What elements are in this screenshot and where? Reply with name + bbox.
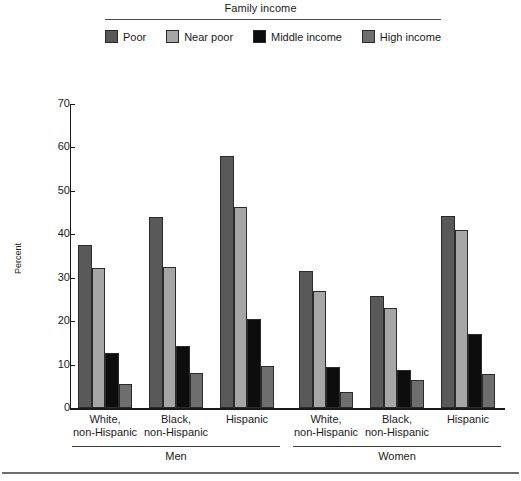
bar bbox=[176, 346, 190, 408]
y-axis-tick-label: 20 bbox=[16, 314, 70, 326]
x-axis-category-label: Hispanic bbox=[202, 413, 292, 426]
bar bbox=[234, 207, 248, 408]
y-axis-tick-label: 50 bbox=[16, 184, 70, 196]
bar bbox=[326, 367, 340, 408]
legend-swatch-high-income bbox=[362, 30, 375, 43]
y-axis-tick-label: 0 bbox=[16, 401, 70, 413]
y-axis-tick-label: 30 bbox=[16, 271, 70, 283]
bar bbox=[190, 373, 204, 408]
bar bbox=[78, 245, 92, 408]
category-label-line2: non-Hispanic bbox=[352, 426, 442, 439]
y-axis-tick-label: 40 bbox=[16, 227, 70, 239]
legend-item-label: Near poor bbox=[184, 31, 233, 43]
legend-swatch-middle-income bbox=[253, 30, 266, 43]
legend-block: Family income PoorNear poorMiddle income… bbox=[0, 0, 521, 58]
legend-items: PoorNear poorMiddle incomeHigh income bbox=[105, 30, 441, 43]
legend-item-near-poor: Near poor bbox=[166, 30, 233, 43]
bar bbox=[119, 384, 133, 408]
legend-divider-rule bbox=[105, 19, 441, 20]
bar bbox=[441, 216, 455, 408]
bar bbox=[370, 296, 384, 408]
legend-item-label: Poor bbox=[123, 31, 146, 43]
y-axis-label: Percent bbox=[13, 243, 23, 274]
sex-section-label: Men bbox=[72, 450, 280, 462]
legend-item-high-income: High income bbox=[362, 30, 441, 43]
bar bbox=[299, 271, 313, 408]
sex-section-rule bbox=[72, 446, 280, 447]
bar bbox=[92, 268, 106, 408]
bar bbox=[468, 334, 482, 408]
legend-item-label: High income bbox=[380, 31, 441, 43]
bar bbox=[340, 392, 354, 408]
y-axis-tick-label: 60 bbox=[16, 140, 70, 152]
legend-item-middle-income: Middle income bbox=[253, 30, 342, 43]
bar bbox=[384, 308, 398, 408]
legend-item-poor: Poor bbox=[105, 30, 146, 43]
bar bbox=[149, 217, 163, 408]
category-label-line1: Hispanic bbox=[202, 413, 292, 426]
bar bbox=[105, 353, 119, 408]
sex-section-label: Women bbox=[293, 450, 501, 462]
bar bbox=[163, 267, 177, 408]
y-axis-tick-label: 70 bbox=[16, 97, 70, 109]
legend-title: Family income bbox=[0, 2, 521, 14]
category-label-line2: non-Hispanic bbox=[131, 426, 221, 439]
x-axis-category-label: Hispanic bbox=[423, 413, 513, 426]
sex-section-rule bbox=[293, 446, 501, 447]
bar bbox=[455, 230, 469, 408]
bar bbox=[397, 370, 411, 408]
bar bbox=[220, 156, 234, 408]
legend-item-label: Middle income bbox=[271, 31, 342, 43]
bars-layer bbox=[71, 58, 505, 409]
footer-rule bbox=[2, 472, 519, 474]
chart-plot-area: Percent 010203040506070 White,non-Hispan… bbox=[0, 58, 521, 481]
bar bbox=[313, 291, 327, 408]
legend-swatch-poor bbox=[105, 30, 118, 43]
y-axis-tick-label: 10 bbox=[16, 358, 70, 370]
x-axis-category-labels: White,non-HispanicBlack,non-HispanicHisp… bbox=[71, 413, 505, 445]
legend-swatch-near-poor bbox=[166, 30, 179, 43]
bar bbox=[411, 380, 425, 408]
bar bbox=[261, 366, 275, 408]
category-label-line1: Hispanic bbox=[423, 413, 513, 426]
bar bbox=[482, 374, 496, 408]
bar bbox=[247, 319, 261, 408]
